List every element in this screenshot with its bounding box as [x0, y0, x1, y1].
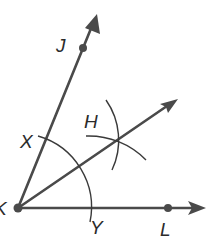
label-x: X: [19, 131, 34, 152]
label-j: J: [55, 35, 66, 56]
arrowhead-icon: [85, 14, 100, 34]
point-j: [79, 44, 87, 52]
vertex-point-k: [14, 204, 23, 213]
label-l: L: [160, 219, 171, 240]
arc-centered-y: [106, 100, 119, 170]
ray-kl: [18, 201, 206, 215]
ray-kh-bisector: [18, 99, 178, 208]
label-h: H: [84, 111, 98, 132]
point-l: [164, 204, 172, 212]
label-k: K: [0, 198, 8, 219]
label-y: Y: [90, 217, 104, 238]
angle-bisector-diagram: J L X Y H K: [0, 0, 206, 240]
arrowhead-icon: [160, 99, 178, 113]
